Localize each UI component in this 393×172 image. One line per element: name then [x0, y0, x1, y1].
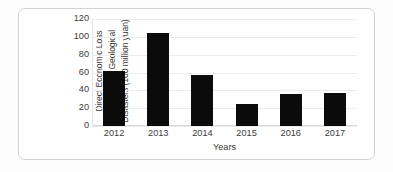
x-axis-tick-label: 2014: [192, 128, 212, 138]
gridline: [92, 73, 357, 74]
y-axis-tick-label: 40: [79, 86, 89, 95]
y-axis-tick-label: 80: [79, 50, 89, 59]
chart-figure: Direct Economic Loss Caused by Geologica…: [0, 0, 393, 172]
bar-2013: [147, 33, 169, 126]
x-axis-tick-label: 2016: [281, 128, 301, 138]
y-axis-tick-label: 0: [84, 121, 89, 130]
gridline: [92, 108, 357, 109]
x-axis-tick-label: 2013: [148, 128, 168, 138]
bar-2016: [280, 94, 302, 126]
gridline: [92, 19, 357, 20]
bar-2012: [103, 71, 125, 126]
x-axis-tick-label: 2012: [104, 128, 124, 138]
y-axis-tick-label: 20: [79, 104, 89, 113]
x-axis-tick-labels: 201220132014201520162017: [92, 128, 357, 142]
bar-2015: [236, 104, 258, 126]
x-axis-tick-label: 2015: [236, 128, 256, 138]
x-axis-tick-label: 2017: [325, 128, 345, 138]
y-axis-tick-label: 120: [74, 14, 89, 23]
gridline: [92, 37, 357, 38]
x-axis-title: Years: [92, 142, 357, 152]
plot-area: [92, 19, 357, 126]
gridline: [92, 55, 357, 56]
y-axis-tick-label: 60: [79, 68, 89, 77]
y-axis-tick-labels: 020406080100120: [62, 13, 89, 133]
gridline: [92, 126, 357, 127]
bar-2017: [324, 93, 346, 126]
bar-2014: [191, 75, 213, 126]
gridline: [92, 90, 357, 91]
y-axis-tick-label: 100: [74, 32, 89, 41]
